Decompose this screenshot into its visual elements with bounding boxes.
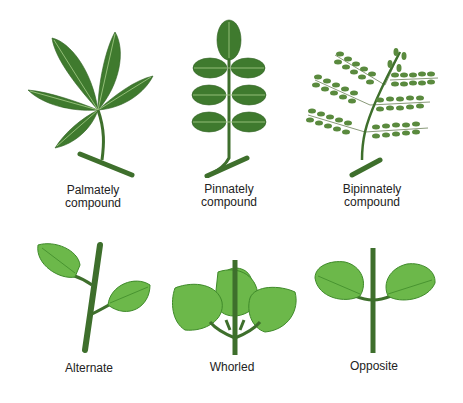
label-line-1: Alternate — [29, 362, 149, 375]
label-line-1: Whorled — [172, 361, 292, 374]
opposite-leaf-icon — [310, 248, 440, 358]
pinnately-compound-illustration — [185, 18, 275, 178]
bipinnately-compound-illustration — [300, 40, 450, 180]
palmately-compound-leaf-icon — [20, 30, 160, 180]
palmately-compound-illustration — [20, 30, 160, 180]
pinnately-compound-leaf-icon — [185, 18, 275, 178]
label-opposite: Opposite — [314, 360, 434, 373]
whorled-leaf-icon — [160, 250, 310, 360]
alternate-leaf-arrangement-illustration — [30, 235, 160, 355]
label-line-1: Opposite — [314, 360, 434, 373]
opposite-leaf-arrangement-illustration — [310, 248, 440, 358]
label-line-2: compound — [169, 196, 289, 209]
alternate-leaf-icon — [30, 235, 160, 355]
bipinnately-compound-leaf-icon — [300, 40, 450, 180]
label-line-2: compound — [33, 197, 153, 210]
label-whorled: Whorled — [172, 361, 292, 374]
label-pinnately-compound: Pinnately compound — [169, 183, 289, 209]
whorled-leaf-arrangement-illustration — [160, 250, 310, 360]
label-alternate: Alternate — [29, 362, 149, 375]
label-line-2: compound — [312, 196, 432, 209]
label-bipinnately-compound: Bipinnately compound — [312, 183, 432, 209]
label-palmately-compound: Palmately compound — [33, 184, 153, 210]
